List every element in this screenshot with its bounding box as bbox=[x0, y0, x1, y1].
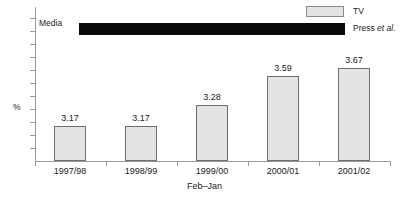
y-axis-title: % bbox=[13, 103, 21, 112]
y-axis-tick bbox=[30, 135, 35, 136]
y-axis-line bbox=[35, 7, 36, 162]
bar-2000-01 bbox=[267, 76, 299, 161]
x-axis-title: Feb–Jan bbox=[0, 182, 409, 191]
y-axis-tick bbox=[30, 96, 35, 97]
x-axis-category-label: 1997/98 bbox=[32, 167, 108, 176]
bar-chart: TV Press et al. Media % Feb–Jan 3.17 3.1… bbox=[0, 0, 409, 200]
bar-value-label: 3.59 bbox=[253, 64, 313, 73]
y-axis-tick bbox=[30, 18, 35, 19]
y-axis-tick bbox=[30, 148, 35, 149]
x-axis-category-label: 1999/00 bbox=[174, 167, 250, 176]
x-axis-tick bbox=[390, 161, 391, 166]
bar-2001-02 bbox=[338, 68, 370, 161]
x-axis-line bbox=[35, 161, 390, 162]
y-axis-tick bbox=[30, 57, 35, 58]
bar-1999-00 bbox=[196, 105, 228, 161]
y-axis-tick bbox=[30, 31, 35, 32]
x-axis-category-label: 1998/99 bbox=[103, 167, 179, 176]
bar-value-label: 3.17 bbox=[40, 114, 100, 123]
legend-label-tv: TV bbox=[353, 7, 364, 16]
bar-value-label: 3.67 bbox=[324, 56, 384, 65]
x-axis-tick bbox=[319, 161, 320, 166]
x-axis-tick bbox=[106, 161, 107, 166]
y-axis-tick bbox=[30, 122, 35, 123]
legend-item-tv: TV bbox=[306, 3, 406, 20]
legend-label-press-italic: et al. bbox=[377, 23, 395, 33]
x-axis-tick bbox=[177, 161, 178, 166]
media-annotation-bar bbox=[79, 23, 345, 35]
bar-1997-98 bbox=[54, 126, 86, 161]
x-axis-category-label: 2001/02 bbox=[316, 167, 392, 176]
y-axis-tick bbox=[30, 70, 35, 71]
bar-value-label: 3.28 bbox=[182, 93, 242, 102]
bar-1998-99 bbox=[125, 126, 157, 161]
x-axis-category-label: 2000/01 bbox=[245, 167, 321, 176]
bar-value-label: 3.17 bbox=[111, 114, 171, 123]
x-axis-tick bbox=[248, 161, 249, 166]
x-axis-tick bbox=[35, 161, 36, 166]
y-axis-tick bbox=[30, 83, 35, 84]
y-axis-tick bbox=[30, 44, 35, 45]
y-axis-tick bbox=[30, 109, 35, 110]
media-annotation-label: Media bbox=[39, 19, 62, 28]
legend-label-press-plain: Press bbox=[353, 23, 377, 33]
legend-label-press: Press et al. bbox=[353, 24, 396, 33]
legend-swatch-tv bbox=[306, 6, 344, 17]
